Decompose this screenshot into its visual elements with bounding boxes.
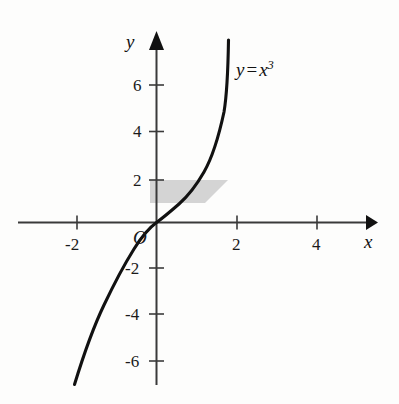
origin-label: O [133, 228, 147, 247]
y-axis-label: y [126, 32, 134, 51]
x-axis-arrow [366, 215, 378, 230]
curve-label-equals: = [244, 59, 259, 80]
x-axis-label: x [364, 232, 372, 251]
y-tick-label--6: -6 [125, 353, 139, 370]
y-tick-label--4: -4 [125, 306, 139, 323]
curve-label-base: x [259, 59, 267, 80]
curve-label-exponent: 3 [268, 58, 274, 72]
y-axis-arrow [149, 31, 164, 50]
plot-canvas [0, 0, 399, 404]
cubic-function-graph: -2 2 4 6 4 2 -2 -4 -6 O y x y=x3 [0, 0, 399, 404]
cubic-curve [75, 40, 229, 385]
y-tick-label--2: -2 [125, 260, 139, 277]
x-tick-label-4: 4 [312, 236, 321, 253]
x-tick-label-2: 2 [232, 236, 241, 253]
y-tick-label-2: 2 [133, 172, 142, 189]
x-tick-label--2: -2 [65, 236, 79, 253]
curve-equation-label: y=x3 [236, 60, 274, 79]
y-tick-label-4: 4 [133, 123, 142, 140]
y-tick-label-6: 6 [133, 77, 142, 94]
